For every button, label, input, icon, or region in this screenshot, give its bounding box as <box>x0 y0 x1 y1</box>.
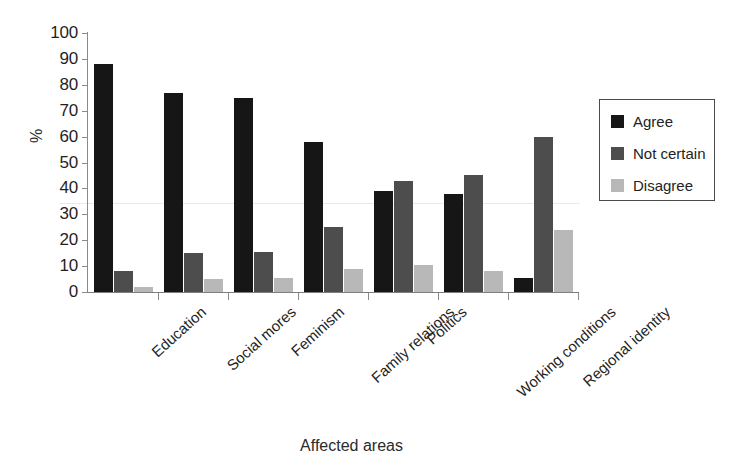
bar <box>184 253 203 292</box>
legend-entry-disagree: Disagree <box>611 177 693 193</box>
y-axis-title: % <box>28 129 46 143</box>
bar <box>374 191 393 292</box>
x-axis-tick-mark <box>298 293 299 300</box>
y-axis-tick-label: 0 <box>38 283 78 300</box>
x-axis-category-label: Education <box>149 303 210 360</box>
y-axis-tick-label: 30 <box>38 205 78 222</box>
bar <box>114 271 133 292</box>
x-axis-category-label: Feminism <box>288 303 348 359</box>
y-axis-tick-label: 100 <box>38 24 78 41</box>
y-axis-tick-label: 90 <box>38 50 78 67</box>
y-axis-tick-mark <box>82 292 88 293</box>
bar-group <box>514 33 573 292</box>
bar <box>484 271 503 292</box>
legend-swatch-not-certain <box>611 147 624 160</box>
bar-group <box>304 33 363 292</box>
legend-entry-not-certain: Not certain <box>611 145 706 161</box>
x-axis-title-text: Affected areas <box>300 437 403 454</box>
bar <box>534 137 553 292</box>
bar <box>164 93 183 292</box>
bar <box>304 142 323 292</box>
legend-swatch-disagree <box>611 179 624 192</box>
bar-group <box>374 33 433 292</box>
legend-label-disagree: Disagree <box>633 178 693 193</box>
y-axis-tick-label: 50 <box>38 154 78 171</box>
legend-swatch-agree <box>611 115 624 128</box>
bar <box>324 227 343 292</box>
plot-area <box>88 33 578 292</box>
bar <box>274 278 293 292</box>
x-axis-tick-mark <box>368 293 369 300</box>
x-axis-tick-mark <box>438 293 439 300</box>
x-axis-tick-mark <box>578 293 579 300</box>
x-axis-tick-mark <box>508 293 509 300</box>
legend-label-not-certain: Not certain <box>633 146 706 161</box>
bar <box>464 175 483 292</box>
bar <box>234 98 253 292</box>
legend-label-agree: Agree <box>633 114 673 129</box>
bar <box>444 194 463 292</box>
x-axis-tick-mark <box>158 293 159 300</box>
bar <box>204 279 223 292</box>
x-axis-line <box>87 292 579 293</box>
bar-group <box>164 33 223 292</box>
bar <box>394 181 413 292</box>
bar <box>254 252 273 292</box>
bar <box>554 230 573 292</box>
bar <box>414 265 433 292</box>
y-axis-tick-label: 70 <box>38 102 78 119</box>
y-axis-tick-label: 40 <box>38 179 78 196</box>
bar-group <box>94 33 153 292</box>
y-axis-tick-label: 80 <box>38 76 78 93</box>
bar <box>94 64 113 292</box>
bar-chart-figure: 0102030405060708090100 % EducationSocial… <box>0 0 753 470</box>
x-axis-category-label: Working conditions <box>514 303 619 400</box>
y-axis-tick-label: 20 <box>38 231 78 248</box>
bar <box>344 269 363 292</box>
bar <box>134 287 153 292</box>
bar-group <box>234 33 293 292</box>
x-axis-category-label: Social mores <box>224 303 300 374</box>
chart-legend: Agree Not certain Disagree <box>599 99 715 201</box>
x-axis-tick-mark <box>228 293 229 300</box>
legend-entry-agree: Agree <box>611 113 673 129</box>
bar-group <box>444 33 503 292</box>
x-axis-title: Affected areas <box>0 437 753 455</box>
bar <box>514 278 533 292</box>
y-axis-tick-label: 10 <box>38 257 78 274</box>
